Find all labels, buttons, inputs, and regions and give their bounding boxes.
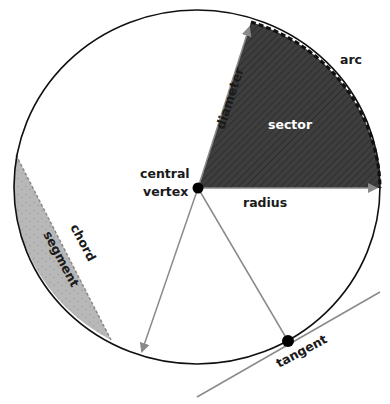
circle-diagram: arc sector diameter central vertex radiu… xyxy=(0,0,390,404)
central-vertex-point xyxy=(193,183,204,194)
radius-to-tangent-line xyxy=(198,188,288,341)
vertex-label: vertex xyxy=(143,184,188,199)
central-label: central xyxy=(140,166,190,181)
arc-label: arc xyxy=(340,52,362,67)
radius-arrow-lower xyxy=(142,188,198,351)
tangent-point xyxy=(282,335,294,347)
chord-label: chord xyxy=(67,221,99,263)
sector-label: sector xyxy=(268,117,313,132)
radius-label: radius xyxy=(243,195,287,210)
